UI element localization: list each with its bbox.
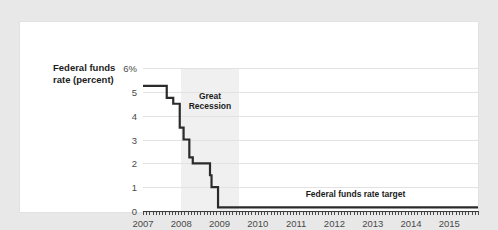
x-axis-tick-label: 2008 xyxy=(171,218,192,229)
recession-label-line2: Recession xyxy=(189,101,232,111)
x-axis-line xyxy=(143,211,478,212)
y-axis-tick-label: 4 xyxy=(132,110,137,121)
target-annotation: Federal funds rate target xyxy=(306,189,406,199)
y-axis-tick-label: 1 xyxy=(132,182,137,193)
x-axis-tick-label: 2010 xyxy=(247,218,268,229)
y-axis-tick-label: 3 xyxy=(132,134,137,145)
y-axis-tick-label: 2 xyxy=(132,158,137,169)
x-axis-tick-label: 2009 xyxy=(209,218,230,229)
plot-area: 6%543210 2007200820092010201120122013201… xyxy=(143,68,478,211)
chart-panel: Federal funds rate (percent) 6%543210 20… xyxy=(20,22,478,212)
x-axis-tick-label: 2012 xyxy=(324,218,345,229)
y-axis-tick-label: 0 xyxy=(132,206,137,217)
recession-label-line1: Great xyxy=(199,91,221,101)
y-axis-title-line2: rate (percent) xyxy=(53,74,114,85)
recession-annotation: Great Recession xyxy=(181,91,238,112)
y-axis-tick-label: 6% xyxy=(123,63,137,74)
x-axis-tick-label: 2007 xyxy=(132,218,153,229)
x-axis-tick-label: 2015 xyxy=(439,218,460,229)
x-axis-tick-label: 2013 xyxy=(362,218,383,229)
x-axis-tick-label: 2014 xyxy=(400,218,421,229)
figure-container: Federal funds rate (percent) 6%543210 20… xyxy=(0,0,498,230)
y-axis-title-line1: Federal funds xyxy=(53,62,115,73)
minor-tick xyxy=(478,211,479,215)
y-axis-tick-label: 5 xyxy=(132,86,137,97)
x-axis-tick-label: 2011 xyxy=(286,218,306,229)
